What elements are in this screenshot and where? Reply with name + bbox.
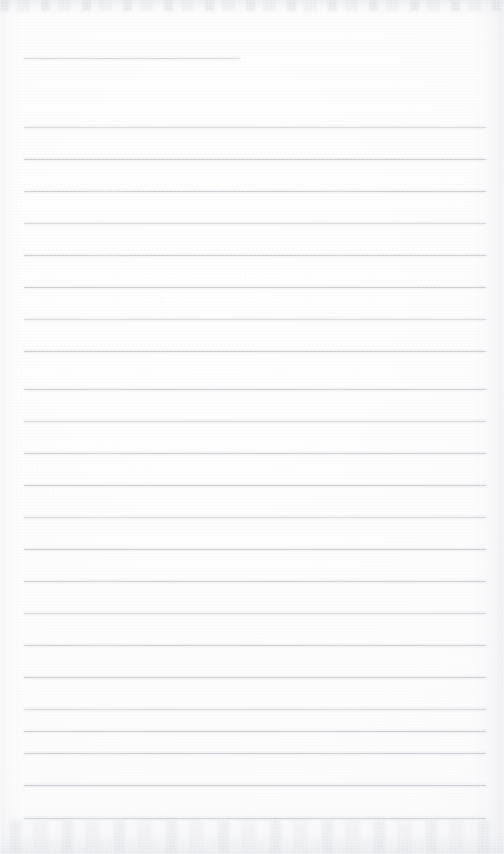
rule-line: [24, 421, 486, 422]
rule-line: [24, 223, 486, 224]
rule-line: [24, 389, 486, 390]
rule-line: [24, 319, 486, 320]
rule-line: [24, 127, 486, 128]
short-rule-line: [24, 58, 240, 59]
page-bottom-shadow: [0, 808, 504, 854]
rule-line: [24, 191, 486, 192]
rule-line: [24, 731, 486, 732]
rule-line: [24, 613, 486, 614]
scanned-page: [0, 0, 504, 854]
rule-line: [24, 581, 486, 582]
rule-line: [24, 517, 486, 518]
rule-line: [24, 549, 486, 550]
rule-line: [24, 255, 486, 256]
rule-line: [24, 159, 486, 160]
rule-line: [24, 453, 486, 454]
rule-line: [24, 753, 486, 754]
rule-line: [24, 287, 486, 288]
ruled-lines-layer: [0, 0, 504, 854]
rule-line: [24, 709, 486, 710]
rule-line: [24, 785, 486, 786]
rule-line: [24, 645, 486, 646]
rule-line: [24, 677, 486, 678]
rule-line: [24, 351, 486, 352]
rule-line: [24, 485, 486, 486]
